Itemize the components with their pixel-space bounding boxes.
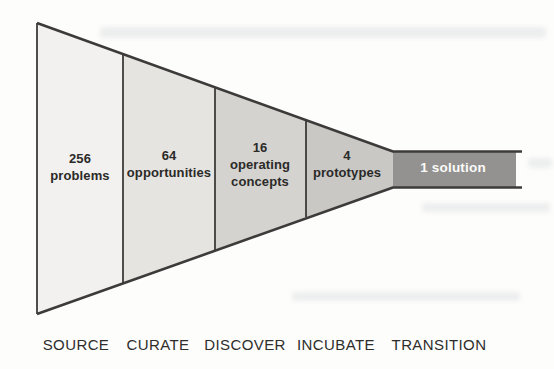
curate-count: 64 [122, 147, 216, 164]
curate-label: opportunities [122, 164, 216, 181]
scanned-page: 256 problems 64 opportunities 16 operati… [0, 0, 554, 369]
segment-text-curate: 64 opportunities [122, 147, 216, 181]
segment-text-source: 256 problems [38, 150, 122, 184]
segment-text-incubate: 4 prototypes [302, 147, 392, 181]
discover-count: 16 [221, 139, 299, 156]
discover-label: operating concepts [221, 156, 299, 190]
incubate-label: prototypes [302, 164, 392, 181]
transition-result-text: 1 solution [396, 160, 510, 175]
source-count: 256 [38, 150, 122, 167]
source-label: problems [38, 167, 122, 184]
segment-text-discover: 16 operating concepts [221, 139, 299, 190]
stage-name-transition: TRANSITION [369, 336, 509, 353]
incubate-count: 4 [302, 147, 392, 164]
